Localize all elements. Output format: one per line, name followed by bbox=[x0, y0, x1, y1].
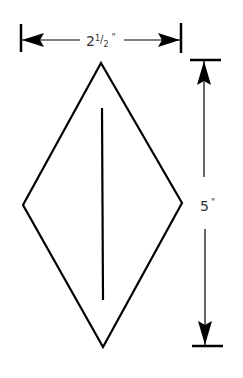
height-dimension: 5" bbox=[190, 60, 223, 346]
width-dimension: 21/2" bbox=[21, 23, 181, 53]
diamond-template-diagram: 21/2" 5" bbox=[0, 0, 243, 378]
height-label: 5" bbox=[200, 197, 215, 214]
width-label: 21/2" bbox=[86, 32, 116, 49]
grain-line bbox=[102, 108, 103, 300]
